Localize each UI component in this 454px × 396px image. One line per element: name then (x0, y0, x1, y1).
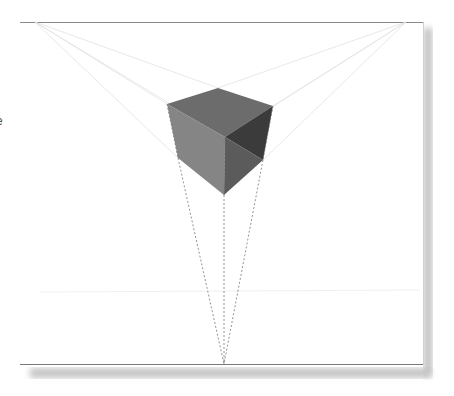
perspective-cube-diagram (0, 0, 454, 396)
faint-guide-line (40, 290, 420, 292)
